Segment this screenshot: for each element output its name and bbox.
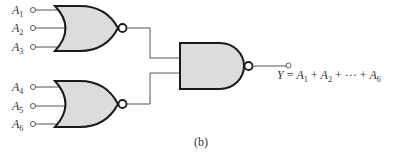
svg-text:A6: A6: [11, 117, 23, 133]
nor-gate-2: [55, 81, 127, 127]
input-terminal-icon: [31, 104, 36, 109]
figure-caption: (b): [194, 135, 208, 149]
wire-nor1-to-nand: [127, 28, 181, 58]
input-terminal-icon: [31, 26, 36, 31]
nand-gate: [180, 43, 253, 89]
svg-text:A5: A5: [11, 99, 23, 115]
svg-text:A2: A2: [11, 21, 23, 37]
input-a2: A2: [11, 21, 66, 37]
inverter-bubble-icon: [119, 24, 127, 32]
svg-text:A4: A4: [11, 80, 23, 96]
input-a3: A3: [11, 40, 62, 56]
inverter-bubble-icon: [245, 62, 253, 70]
svg-text:A1: A1: [11, 3, 23, 19]
wire-nor2-to-nand: [127, 73, 181, 104]
nor-gate-1: [55, 6, 127, 51]
inverter-bubble-icon: [119, 100, 127, 108]
logic-diagram: A1 A2 A3 A4 A5 A6: [0, 0, 402, 158]
input-terminal-icon: [31, 122, 36, 127]
output-expression: Y = A1 + A2 + ··· + A6: [277, 68, 381, 84]
input-terminal-icon: [31, 45, 36, 50]
input-terminal-icon: [31, 85, 36, 90]
input-a5: A5: [11, 99, 66, 115]
svg-text:A3: A3: [11, 40, 23, 56]
input-a6: A6: [11, 117, 62, 133]
and-gate-icon: [180, 43, 244, 89]
input-a4: A4: [11, 80, 62, 96]
or-gate-icon: [55, 81, 118, 127]
or-gate-icon: [55, 6, 118, 51]
input-terminal-icon: [31, 8, 36, 13]
